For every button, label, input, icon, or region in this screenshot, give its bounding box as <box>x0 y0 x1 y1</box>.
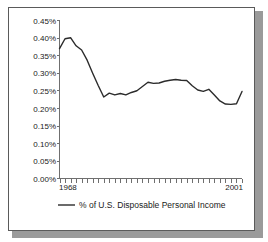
legend-entry-label: % of U.S. Disposable Personal Income <box>79 200 226 210</box>
chart-legend: % of U.S. Disposable Personal Income <box>58 200 226 210</box>
y-axis-tick-label: 0.05% <box>33 157 56 166</box>
y-axis-tick-label: 0.25% <box>33 87 56 96</box>
x-axis-tick-marks <box>61 179 243 183</box>
y-axis-tick-label: 0.30% <box>33 69 56 78</box>
y-axis-tick-label: 0.15% <box>33 122 56 131</box>
chart-figure: 0.45% 0.40% 0.35% 0.30% 0.25% 0.20% 0.15… <box>0 0 268 242</box>
y-axis-tick-label: 0.40% <box>33 34 56 43</box>
plot-area-wrapper: 0.45% 0.40% 0.35% 0.30% 0.25% 0.20% 0.15… <box>9 8 256 232</box>
y-axis-tick-label: 0.35% <box>33 52 56 61</box>
y-axis-tick-label: 0.45% <box>33 17 56 26</box>
x-axis-end-label: 2001 <box>225 183 243 192</box>
y-axis-tick-label: 0.10% <box>33 140 56 149</box>
figure-frame: 0.45% 0.40% 0.35% 0.30% 0.25% 0.20% 0.15… <box>8 7 255 231</box>
y-axis-tick-label: 0.20% <box>33 105 56 114</box>
y-axis-tick-label: 0.00% <box>33 175 56 184</box>
line-chart-svg: 0.45% 0.40% 0.35% 0.30% 0.25% 0.20% 0.15… <box>9 8 256 232</box>
data-series-line <box>60 38 243 105</box>
y-axis-labels: 0.45% 0.40% 0.35% 0.30% 0.25% 0.20% 0.15… <box>33 17 56 184</box>
x-axis-start-label: 1968 <box>59 183 77 192</box>
